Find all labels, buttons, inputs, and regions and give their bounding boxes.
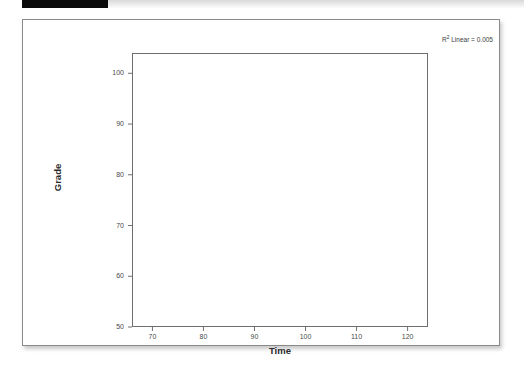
x-tick-label: 110	[344, 333, 370, 340]
x-tick-label: 120	[395, 333, 421, 340]
y-tick-label: 90	[98, 120, 124, 127]
x-tick-label: 100	[293, 333, 319, 340]
header-strip	[0, 0, 524, 9]
x-tick-label: 80	[190, 333, 216, 340]
y-tick-label: 100	[98, 69, 124, 76]
x-tick-label: 70	[139, 333, 165, 340]
y-tick-label: 60	[98, 272, 124, 279]
header-black-tab	[22, 0, 108, 8]
r2-value-text: Linear = 0.005	[449, 36, 493, 43]
x-tick-label: 90	[241, 333, 267, 340]
y-tick-label: 70	[98, 222, 124, 229]
r-squared-annotation: R2 Linear = 0.005	[442, 35, 493, 43]
y-axis-title: Grade	[52, 138, 63, 218]
x-axis-title: Time	[132, 345, 428, 356]
y-tick-label: 80	[98, 171, 124, 178]
plot-frame	[132, 53, 428, 327]
figure-card: 5060708090100708090100110120 Grade Time …	[22, 19, 500, 346]
y-tick-label: 50	[98, 323, 124, 330]
